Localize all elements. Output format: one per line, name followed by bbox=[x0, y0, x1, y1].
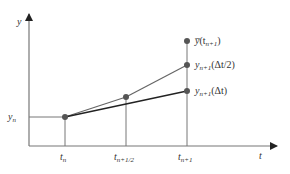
tick-tn-half: tn+1/2 bbox=[114, 151, 134, 164]
diagram-canvas: y t yn tn tn+1/2 tn+1 y̅(tn+1) yn+1(Δt/2… bbox=[0, 0, 290, 174]
tick-tn1: tn+1 bbox=[178, 151, 193, 164]
label-exact: y̅(tn+1) bbox=[194, 35, 221, 48]
label-half-step: yn+1(Δt/2) bbox=[194, 59, 235, 72]
point-half bbox=[123, 94, 129, 100]
label-full-step: yn+1(Δt) bbox=[194, 85, 227, 98]
half-step-line-2 bbox=[126, 65, 187, 97]
yn-label: yn bbox=[7, 111, 16, 124]
point-half-step-result bbox=[184, 62, 190, 68]
point-full-step-result bbox=[184, 88, 190, 94]
half-step-line-1 bbox=[65, 97, 126, 117]
tick-tn: tn bbox=[60, 151, 67, 164]
y-axis-label: y bbox=[16, 16, 22, 27]
point-exact bbox=[184, 38, 190, 44]
point-yn bbox=[62, 114, 68, 120]
x-axis-label: t bbox=[259, 150, 262, 161]
